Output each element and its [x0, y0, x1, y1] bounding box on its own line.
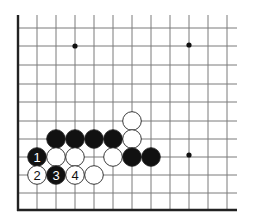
move-number: 2	[33, 168, 40, 183]
black-stone	[142, 148, 161, 167]
star-point-icon	[186, 42, 191, 47]
black-stone	[123, 148, 142, 167]
black-stone	[104, 130, 123, 149]
go-board: 1234	[0, 0, 253, 222]
white-stone	[104, 148, 123, 167]
white-stone	[123, 112, 142, 131]
white-stone	[123, 130, 142, 149]
white-stone	[85, 166, 104, 185]
move-number: 1	[33, 150, 40, 165]
white-stone-2: 2	[28, 166, 47, 185]
black-stone	[85, 130, 104, 149]
black-stone-1: 1	[28, 148, 47, 167]
move-number: 3	[52, 168, 59, 183]
black-stone-3: 3	[47, 166, 66, 185]
white-stone	[47, 148, 66, 167]
star-point-icon	[186, 152, 191, 157]
white-stone	[66, 148, 85, 167]
black-stone	[47, 130, 66, 149]
black-stone	[66, 130, 85, 149]
move-number: 4	[71, 168, 78, 183]
white-stone-4: 4	[66, 166, 85, 185]
star-point-icon	[72, 43, 77, 48]
